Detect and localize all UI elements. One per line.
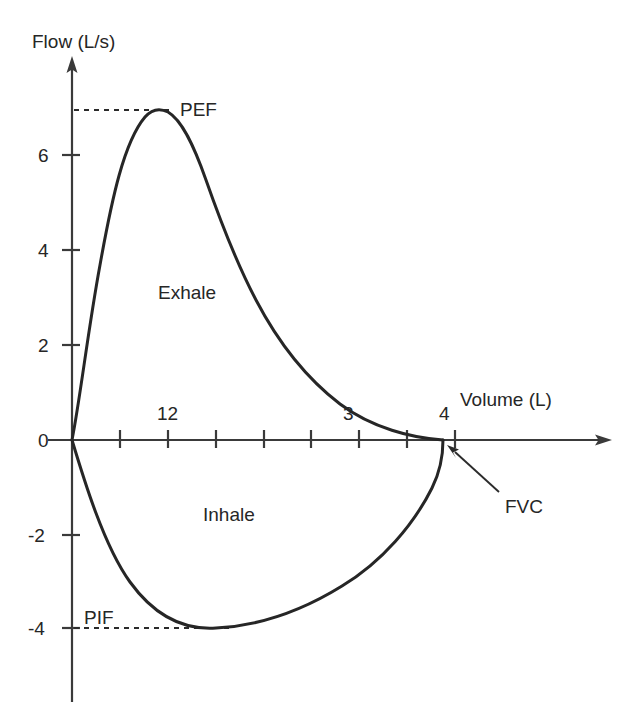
exhale-region-label: Exhale — [158, 283, 216, 302]
fvc-arrow — [447, 445, 499, 492]
y-axis — [67, 56, 78, 702]
y-tick-label-6: 6 — [38, 146, 49, 165]
flow-volume-loop-figure: Flow (L/s) Volume (L) 6 4 2 0 -2 -4 12 3… — [0, 0, 634, 702]
x-axis-title: Volume (L) — [460, 390, 552, 409]
pef-label: PEF — [180, 100, 217, 119]
plot-canvas — [0, 0, 634, 702]
x-axis — [48, 435, 612, 446]
inhale-curve — [72, 440, 443, 628]
pif-label: PIF — [84, 608, 114, 627]
y-tick-label-minus4: -4 — [28, 619, 45, 638]
y-tick-label-0: 0 — [38, 431, 49, 450]
y-axis-title: Flow (L/s) — [32, 32, 115, 51]
y-tick-label-4: 4 — [38, 241, 49, 260]
inhale-region-label: Inhale — [203, 505, 255, 524]
y-tick-label-minus2: -2 — [28, 526, 45, 545]
y-tick-label-2: 2 — [38, 336, 49, 355]
x-tick-label-3: 3 — [343, 404, 354, 423]
fvc-label: FVC — [505, 497, 543, 516]
x-tick-label-4: 4 — [439, 404, 450, 423]
x-tick-label-12: 12 — [157, 404, 178, 423]
exhale-curve — [72, 110, 443, 440]
